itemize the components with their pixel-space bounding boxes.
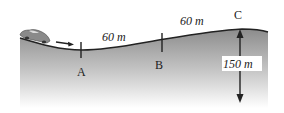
distance-bc-label: 60 m [180,14,204,28]
motion-arrow-icon [56,42,74,47]
point-c-label: C [234,8,242,22]
distance-ab-label: 60 m [102,30,126,44]
point-b-label: B [155,58,163,72]
point-a-label: A [77,65,86,79]
hill-diagram: A B C 60 m 60 m 150 m [0,0,284,113]
height-label: 150 m [223,57,253,71]
